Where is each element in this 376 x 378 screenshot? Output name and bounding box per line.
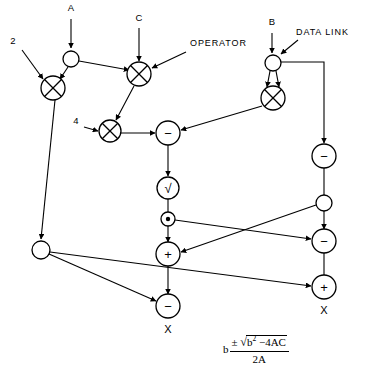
input-a-label: A xyxy=(68,2,75,13)
operator-negate-b-glyph: − xyxy=(320,149,328,164)
dataflow-diagram: −√−+−−+ ACB24XXOPERATORDATA LINK b ± √b2… xyxy=(0,0,376,378)
nodes-layer: −√−+−−+ xyxy=(32,51,336,318)
output-x-right-label: X xyxy=(320,304,328,316)
edge-mul-ac-to-mul-4ac xyxy=(116,86,134,120)
edge-input-4-to-mul-4ac xyxy=(84,127,98,131)
edge-link-a-to-mul-2a xyxy=(60,67,68,79)
operator-subtract-right-glyph: − xyxy=(320,234,328,249)
data-link-a[interactable] xyxy=(63,51,79,67)
input-2-label: 2 xyxy=(10,35,16,46)
operator-divide-right-glyph: + xyxy=(320,280,328,295)
operator-add-center-glyph: + xyxy=(164,247,172,262)
formula-radicand: b2 −4AC xyxy=(246,335,287,348)
operator-divide-center-glyph: − xyxy=(164,299,172,314)
edge-mul-2a-to-link-2a xyxy=(41,100,55,239)
operator-multiply-bb[interactable] xyxy=(261,86,285,110)
input-c-label: C xyxy=(135,12,142,23)
operator-negate-b[interactable]: − xyxy=(312,144,336,168)
graph-canvas: −√−+−−+ ACB24XXOPERATORDATA LINK xyxy=(0,0,376,378)
edge-link-b-to-neg-b xyxy=(281,62,324,143)
operator-annotation: OPERATOR xyxy=(190,38,247,48)
data-link-negated-b[interactable] xyxy=(316,195,332,211)
data-link-2a[interactable] xyxy=(32,241,50,259)
output-x-center-label: X xyxy=(164,323,172,335)
edge-mul-bb-to-sub-disc xyxy=(181,106,262,130)
formula-fraction: ± √b2 −4AC 2A xyxy=(230,334,289,365)
edge-link-b-to-mul-bb-left xyxy=(267,71,270,87)
operator-multiply-ac[interactable] xyxy=(127,62,151,86)
edge-link-2a-to-sub-center xyxy=(49,254,156,301)
data-link-annotation: DATA LINK xyxy=(296,27,349,37)
operator-square-root-glyph: √ xyxy=(164,181,172,196)
leader-operator-annotation xyxy=(152,52,186,68)
operator-multiply-2a[interactable] xyxy=(41,76,65,100)
operator-subtract-right[interactable]: − xyxy=(312,229,336,253)
operator-add-center[interactable]: + xyxy=(156,242,180,266)
operator-plus-minus[interactable] xyxy=(161,212,175,226)
formula-numerator: ± √b2 −4AC xyxy=(230,334,289,352)
labels-layer: ACB24XXOPERATORDATA LINK xyxy=(10,2,349,335)
data-link-b[interactable] xyxy=(265,55,281,71)
operator-multiply-4ac[interactable] xyxy=(99,120,121,142)
operator-divide-center[interactable]: − xyxy=(156,294,180,318)
operator-subtract-discriminant-glyph: − xyxy=(164,126,172,141)
leader-data-link-annotation xyxy=(281,40,298,54)
edge-link-a-to-mul-ac xyxy=(79,61,129,70)
edge-link-b-to-mul-bb-right xyxy=(276,71,279,87)
edge-pm-node-to-sub-right xyxy=(175,220,311,239)
formula-plus-minus: ± xyxy=(232,336,238,348)
input-b-label: B xyxy=(269,16,276,27)
operator-square-root[interactable]: √ xyxy=(157,177,179,199)
edge-link-negb-to-add-center xyxy=(181,205,316,252)
edge-input-2-to-mul-2a xyxy=(22,50,43,79)
input-4-label: 4 xyxy=(73,115,79,126)
operator-divide-right[interactable]: + xyxy=(312,275,336,299)
operator-subtract-discriminant[interactable]: − xyxy=(156,121,180,145)
quadratic-formula: b ± √b2 −4AC 2A xyxy=(196,334,316,365)
edge-link-2a-to-add-right xyxy=(50,252,311,286)
formula-denominator: 2A xyxy=(230,352,289,365)
